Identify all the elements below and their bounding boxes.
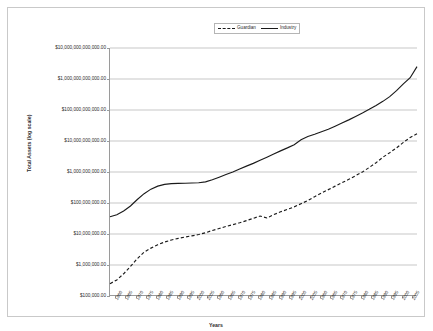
y-tick-mark — [107, 172, 110, 173]
y-tick-label: $100,000,000,000.00 — [62, 108, 106, 113]
y-tick-label: $1,000,000.00 — [76, 263, 106, 268]
y-tick-mark — [107, 203, 110, 204]
y-tick-label: $100,000.00 — [80, 294, 106, 299]
y-tick-label: $10,000,000,000,000.00 — [55, 46, 106, 51]
y-tick-label: $100,000,000.00 — [71, 201, 106, 206]
y-tick-mark — [107, 296, 110, 297]
y-tick-mark — [107, 110, 110, 111]
gridlines — [110, 48, 417, 265]
y-tick-label: $10,000,000.00 — [73, 232, 106, 237]
plot-svg — [110, 48, 417, 296]
x-axis-title: Years — [8, 322, 424, 328]
series-line-guardian — [110, 134, 417, 284]
chart-frame: Guardian Industry Total Assets (log scal… — [7, 7, 425, 317]
legend-label-industry: Industry — [280, 26, 296, 31]
y-tick-label: $10,000,000,000.00 — [64, 139, 106, 144]
series-line-industry — [110, 67, 417, 217]
y-axis-title: Total Assets (log scale) — [27, 115, 32, 172]
plot-area: $10,000,000,000,000.00$1,000,000,000,000… — [109, 48, 416, 296]
y-tick-mark — [107, 234, 110, 235]
legend-label-guardian: Guardian — [237, 26, 256, 31]
y-tick-label: $1,000,000,000.00 — [67, 170, 106, 175]
y-tick-mark — [107, 48, 110, 49]
legend-swatch-industry-icon — [261, 28, 278, 29]
y-tick-mark — [107, 79, 110, 80]
y-tick-mark — [107, 265, 110, 266]
chart-legend: Guardian Industry — [214, 23, 300, 34]
legend-swatch-guardian-icon — [218, 28, 235, 29]
y-tick-mark — [107, 141, 110, 142]
legend-entry-industry: Industry — [261, 26, 296, 31]
legend-entry-guardian: Guardian — [218, 26, 256, 31]
y-tick-label: $1,000,000,000,000.00 — [58, 77, 106, 82]
